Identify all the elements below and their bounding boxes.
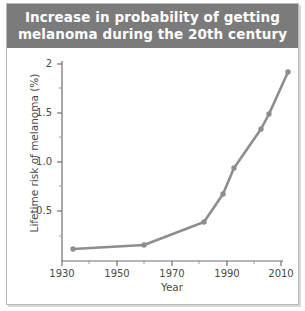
data-point bbox=[141, 242, 146, 247]
x-tick-label-1950: 1950 bbox=[97, 268, 137, 279]
y-tick-label-2: 2 bbox=[18, 58, 52, 69]
x-tick-label-2010: 2010 bbox=[261, 268, 301, 279]
data-point bbox=[220, 191, 225, 196]
data-point bbox=[258, 126, 263, 131]
x-tick-label-1990: 1990 bbox=[207, 268, 247, 279]
x-tick-label-1930: 1930 bbox=[42, 268, 82, 279]
plot-area: 2 1.5 1.0 0.5 1930 1950 1970 1990 2010 L… bbox=[0, 0, 305, 311]
data-point bbox=[285, 69, 290, 74]
series-markers-lifetime-risk bbox=[70, 69, 290, 251]
chart-figure: Increase in probability of getting melan… bbox=[0, 0, 305, 311]
data-point bbox=[70, 246, 75, 251]
data-point bbox=[266, 111, 271, 116]
x-axis-title: Year bbox=[62, 281, 282, 293]
y-axis-title: Lifetime risk of melanoma (%) bbox=[28, 73, 40, 233]
series-line-lifetime-risk bbox=[73, 72, 288, 249]
data-point bbox=[201, 219, 206, 224]
data-point bbox=[231, 165, 236, 170]
x-tick-label-1970: 1970 bbox=[152, 268, 192, 279]
x-axis-ticks bbox=[62, 261, 281, 266]
